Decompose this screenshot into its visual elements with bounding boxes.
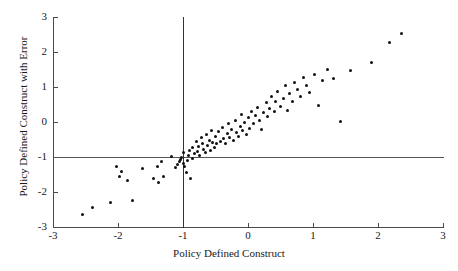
- data-point: [221, 126, 224, 129]
- data-point: [195, 140, 198, 143]
- data-point: [248, 127, 251, 130]
- data-point: [262, 111, 265, 114]
- data-point: [156, 165, 159, 168]
- data-point: [288, 92, 291, 95]
- data-point: [118, 175, 121, 178]
- x-tick-mark: [118, 223, 119, 228]
- data-point: [188, 149, 191, 152]
- data-point: [252, 122, 255, 125]
- data-point: [211, 141, 214, 144]
- data-point: [291, 100, 294, 103]
- data-point: [131, 199, 134, 202]
- data-point: [256, 106, 259, 109]
- data-point: [239, 125, 242, 128]
- x-tick-label: -2: [106, 230, 130, 241]
- data-point: [228, 136, 231, 139]
- data-point: [284, 84, 287, 87]
- y-tick-mark: [53, 17, 58, 18]
- data-point: [115, 165, 118, 168]
- data-point: [209, 149, 212, 152]
- data-point: [293, 81, 296, 84]
- data-point: [241, 129, 244, 132]
- data-point: [308, 91, 311, 94]
- x-tick-label: 0: [236, 230, 260, 241]
- data-point: [219, 140, 222, 143]
- data-point: [254, 114, 257, 117]
- data-point: [176, 163, 179, 166]
- data-point: [273, 110, 276, 113]
- data-point: [321, 79, 324, 82]
- data-point: [182, 151, 185, 154]
- data-point: [185, 171, 188, 174]
- data-point: [126, 179, 129, 182]
- scatter-plot-figure: -3-2-10123 -3-2-10123 Policy Defined Con…: [0, 0, 458, 271]
- data-point: [224, 142, 227, 145]
- data-point: [247, 116, 250, 119]
- data-point: [227, 122, 230, 125]
- x-tick-mark: [378, 223, 379, 228]
- data-point: [250, 110, 253, 113]
- data-point: [240, 113, 243, 116]
- data-point: [230, 128, 233, 131]
- data-point: [206, 144, 209, 147]
- data-point: [81, 213, 84, 216]
- y-tick-mark: [53, 87, 58, 88]
- x-tick-mark: [443, 223, 444, 228]
- data-point: [400, 32, 403, 35]
- x-tick-label: -1: [171, 230, 195, 241]
- data-point: [152, 177, 155, 180]
- data-point: [270, 95, 273, 98]
- data-point: [317, 104, 320, 107]
- data-point: [260, 128, 263, 131]
- data-point: [286, 109, 289, 112]
- data-point: [302, 76, 305, 79]
- data-point: [141, 167, 144, 170]
- data-point: [268, 107, 271, 110]
- data-point: [205, 133, 208, 136]
- data-point: [157, 181, 160, 184]
- data-point: [226, 132, 229, 135]
- y-tick-mark: [53, 192, 58, 193]
- data-point: [235, 131, 238, 134]
- data-point: [243, 121, 246, 124]
- data-point: [91, 206, 94, 209]
- data-point: [215, 142, 218, 145]
- x-tick-label: 3: [431, 230, 455, 241]
- data-point: [189, 177, 192, 180]
- data-point: [232, 139, 235, 142]
- data-point: [222, 137, 225, 140]
- data-point: [388, 41, 391, 44]
- data-point: [174, 166, 177, 169]
- data-point: [196, 150, 199, 153]
- y-axis-title: Policy Defined Construct with Error: [17, 12, 30, 222]
- data-point: [191, 157, 194, 160]
- data-point: [265, 101, 268, 104]
- data-point: [279, 105, 282, 108]
- vertical-reference-line: [183, 17, 184, 228]
- data-point: [201, 142, 204, 145]
- x-tick-label: 2: [366, 230, 390, 241]
- data-point: [245, 133, 248, 136]
- data-point: [162, 175, 165, 178]
- data-point: [234, 119, 237, 122]
- data-point: [109, 201, 112, 204]
- data-point: [276, 90, 279, 93]
- x-tick-label: -3: [41, 230, 65, 241]
- x-tick-mark: [248, 223, 249, 228]
- data-point: [237, 135, 240, 138]
- y-tick-mark: [53, 52, 58, 53]
- x-tick-label: 1: [301, 230, 325, 241]
- data-point: [213, 146, 216, 149]
- data-point: [339, 120, 342, 123]
- data-point: [217, 130, 220, 133]
- data-point: [197, 145, 200, 148]
- data-point: [183, 165, 186, 168]
- data-point: [296, 88, 299, 91]
- data-point: [266, 115, 269, 118]
- x-tick-mark: [313, 223, 314, 228]
- data-point: [120, 170, 123, 173]
- y-tick-mark: [53, 122, 58, 123]
- horizontal-reference-line: [53, 157, 444, 158]
- data-point: [160, 160, 163, 163]
- data-point: [299, 95, 302, 98]
